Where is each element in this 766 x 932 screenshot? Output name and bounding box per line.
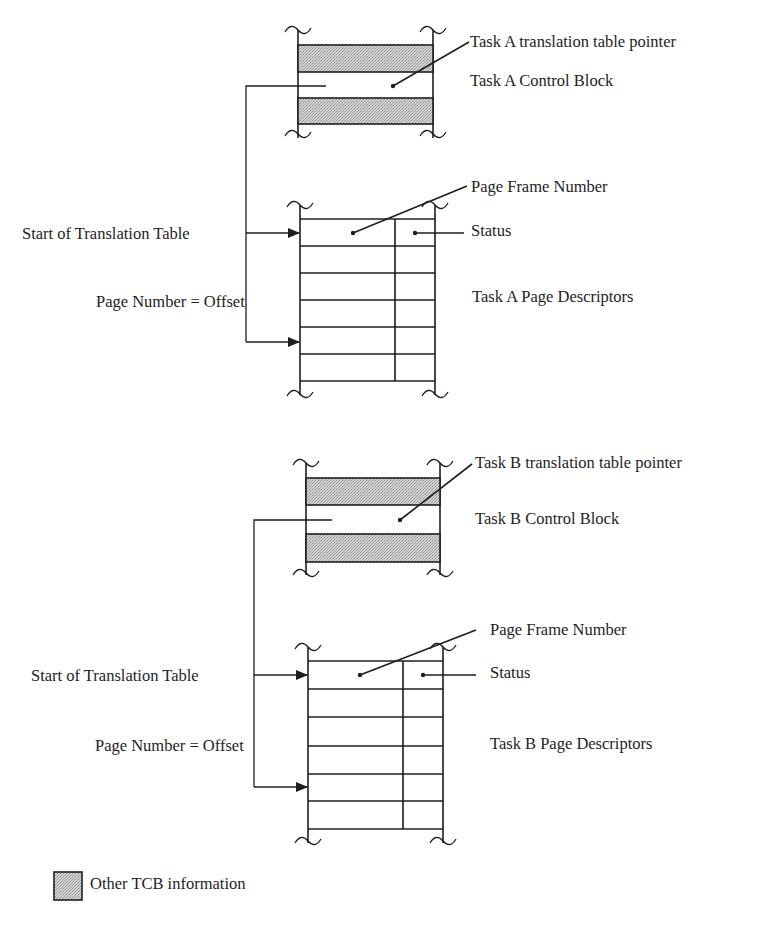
legend-label: Other TCB information	[90, 874, 246, 893]
task-b-descriptor-table	[295, 630, 476, 845]
legend: Other TCB information	[54, 872, 246, 900]
task-b-tcb-label: Task B Control Block	[475, 509, 620, 528]
tcb-shaded-field	[306, 478, 440, 505]
task-a-descriptors-label: Task A Page Descriptors	[472, 287, 634, 306]
task-b-descriptors-label: Task B Page Descriptors	[490, 734, 652, 753]
task-b-control-block	[293, 459, 472, 576]
task-a-page-frame-label: Page Frame Number	[471, 177, 608, 196]
translation-table-diagram: Task A translation table pointer Task A …	[0, 0, 766, 932]
task-a-pointer-label: Task A translation table pointer	[470, 32, 676, 51]
tcb-shaded-field	[306, 534, 440, 562]
task-a-group: Task A translation table pointer Task A …	[22, 26, 676, 397]
task-b-start-label: Start of Translation Table	[31, 666, 199, 685]
task-b-status-label: Status	[490, 663, 530, 682]
task-b-group: Task B translation table pointer Task B …	[31, 453, 682, 845]
task-a-control-block	[285, 26, 469, 138]
tcb-shaded-field	[298, 45, 433, 72]
legend-shaded-swatch	[54, 872, 82, 900]
task-a-start-label: Start of Translation Table	[22, 224, 190, 243]
task-b-pointer-label: Task B translation table pointer	[475, 453, 682, 472]
task-b-offset-label: Page Number = Offset	[95, 736, 244, 755]
tcb-shaded-field	[298, 98, 433, 124]
task-b-page-frame-label: Page Frame Number	[490, 620, 627, 639]
task-a-descriptor-table	[287, 186, 467, 398]
task-a-tcb-label: Task A Control Block	[470, 71, 614, 90]
task-a-status-label: Status	[471, 221, 511, 240]
task-a-offset-label: Page Number = Offset	[96, 292, 245, 311]
